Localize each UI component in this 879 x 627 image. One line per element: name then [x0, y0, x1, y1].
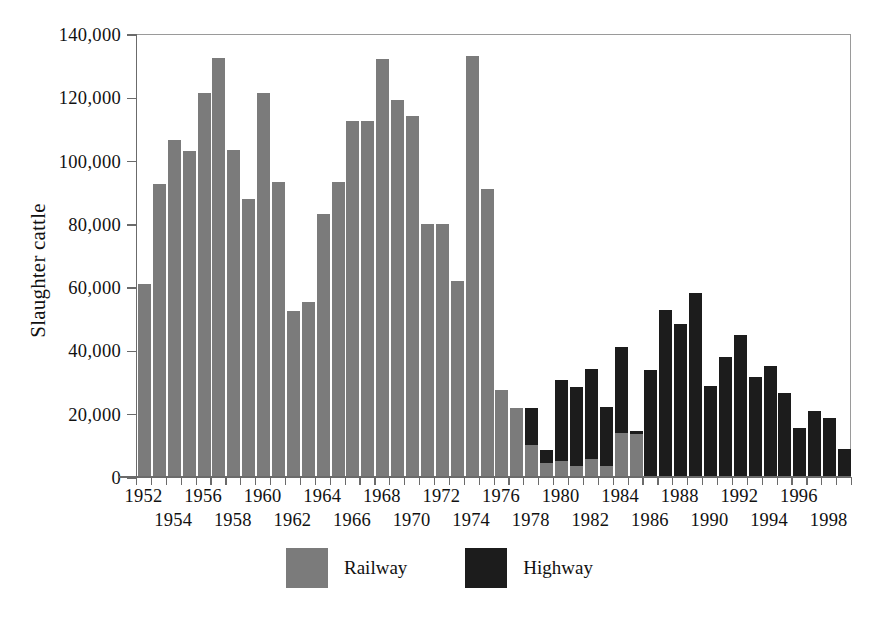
x-tick-mark — [806, 477, 807, 485]
bar[interactable] — [451, 281, 464, 477]
x-tick-label: 1974 — [452, 510, 490, 531]
bar[interactable] — [495, 390, 508, 477]
bar[interactable] — [391, 100, 404, 477]
bar-segment-railway — [332, 182, 345, 477]
bar[interactable] — [376, 59, 389, 477]
legend-label-highway: Highway — [523, 557, 593, 579]
bar[interactable] — [823, 418, 836, 477]
bar-segment-highway — [585, 369, 598, 458]
x-tick-mark — [255, 477, 256, 485]
x-tick-mark — [240, 477, 241, 485]
bar[interactable] — [183, 151, 196, 477]
bar[interactable] — [212, 58, 225, 477]
bar-segment-railway — [302, 302, 315, 477]
bar[interactable] — [585, 369, 598, 477]
bar[interactable] — [406, 116, 419, 477]
x-tick-mark — [300, 477, 301, 485]
bar-segment-railway — [406, 116, 419, 477]
bar[interactable] — [734, 335, 747, 477]
bar[interactable] — [525, 408, 538, 477]
x-tick-mark — [777, 477, 778, 485]
bar[interactable] — [749, 377, 762, 477]
bar[interactable] — [659, 310, 672, 477]
bar[interactable] — [227, 150, 240, 478]
bar[interactable] — [644, 370, 657, 477]
x-tick-mark — [836, 477, 837, 485]
bar-segment-railway — [138, 284, 151, 477]
bar[interactable] — [138, 284, 151, 477]
bar[interactable] — [346, 121, 359, 477]
bar[interactable] — [719, 357, 732, 477]
bar[interactable] — [287, 311, 300, 477]
x-tick-mark — [419, 477, 420, 485]
bar-segment-railway — [257, 93, 270, 477]
bar[interactable] — [600, 407, 613, 477]
bar[interactable] — [510, 408, 523, 477]
bar[interactable] — [764, 366, 777, 477]
bar[interactable] — [615, 347, 628, 477]
bar[interactable] — [570, 387, 583, 477]
bar[interactable] — [540, 450, 553, 477]
bar[interactable] — [317, 214, 330, 477]
x-tick-label: 1992 — [720, 486, 758, 507]
bar[interactable] — [808, 411, 821, 477]
bar-segment-railway — [481, 189, 494, 477]
bar[interactable] — [302, 302, 315, 477]
bar[interactable] — [778, 393, 791, 477]
y-tick-label: 60,000 — [68, 278, 121, 299]
bar[interactable] — [361, 121, 374, 477]
bar[interactable] — [689, 293, 702, 477]
bar[interactable] — [674, 324, 687, 477]
y-tick-label: 140,000 — [59, 25, 121, 46]
bar[interactable] — [793, 428, 806, 477]
bar-segment-highway — [793, 428, 806, 477]
x-tick-label: 1990 — [691, 510, 729, 531]
y-tick-mark — [127, 224, 137, 225]
bar-segment-highway — [570, 387, 583, 466]
bar-segment-railway — [451, 281, 464, 477]
bar[interactable] — [838, 449, 851, 477]
x-tick-mark — [181, 477, 182, 485]
bar-segment-railway — [376, 59, 389, 477]
bar-segment-railway — [153, 184, 166, 477]
x-tick-mark — [151, 477, 152, 485]
bar-segment-highway — [600, 407, 613, 466]
x-tick-mark — [285, 477, 286, 485]
bar[interactable] — [198, 93, 211, 477]
bar[interactable] — [153, 184, 166, 477]
bar-segment-highway — [555, 380, 568, 461]
bar[interactable] — [242, 199, 255, 477]
x-tick-mark — [657, 477, 658, 485]
bar[interactable] — [555, 380, 568, 477]
x-tick-mark — [762, 477, 763, 485]
bar[interactable] — [168, 140, 181, 477]
x-tick-mark — [434, 477, 435, 485]
bar[interactable] — [272, 182, 285, 477]
x-tick-label: 1996 — [780, 486, 818, 507]
x-tick-mark — [374, 477, 375, 485]
x-tick-mark — [210, 477, 211, 485]
x-tick-mark — [136, 477, 137, 485]
bar-segment-railway — [361, 121, 374, 477]
bar-segment-railway — [615, 433, 628, 477]
bar-segment-railway — [466, 56, 479, 477]
bar-segment-highway — [734, 335, 747, 477]
bar[interactable] — [704, 386, 717, 477]
bar[interactable] — [436, 224, 449, 477]
bar[interactable] — [630, 431, 643, 477]
x-tick-mark — [687, 477, 688, 485]
bar-segment-railway — [510, 408, 523, 477]
x-tick-mark — [345, 477, 346, 485]
bar[interactable] — [332, 182, 345, 477]
bar-segment-highway — [659, 310, 672, 477]
bar-segment-highway — [615, 347, 628, 432]
bar[interactable] — [466, 56, 479, 477]
x-tick-label: 1962 — [274, 510, 312, 531]
x-tick-mark — [791, 477, 792, 485]
bar[interactable] — [421, 224, 434, 477]
bar[interactable] — [481, 189, 494, 477]
x-tick-mark — [642, 477, 643, 485]
x-tick-label: 1994 — [750, 510, 788, 531]
y-tick-mark — [127, 287, 137, 288]
bar[interactable] — [257, 93, 270, 477]
